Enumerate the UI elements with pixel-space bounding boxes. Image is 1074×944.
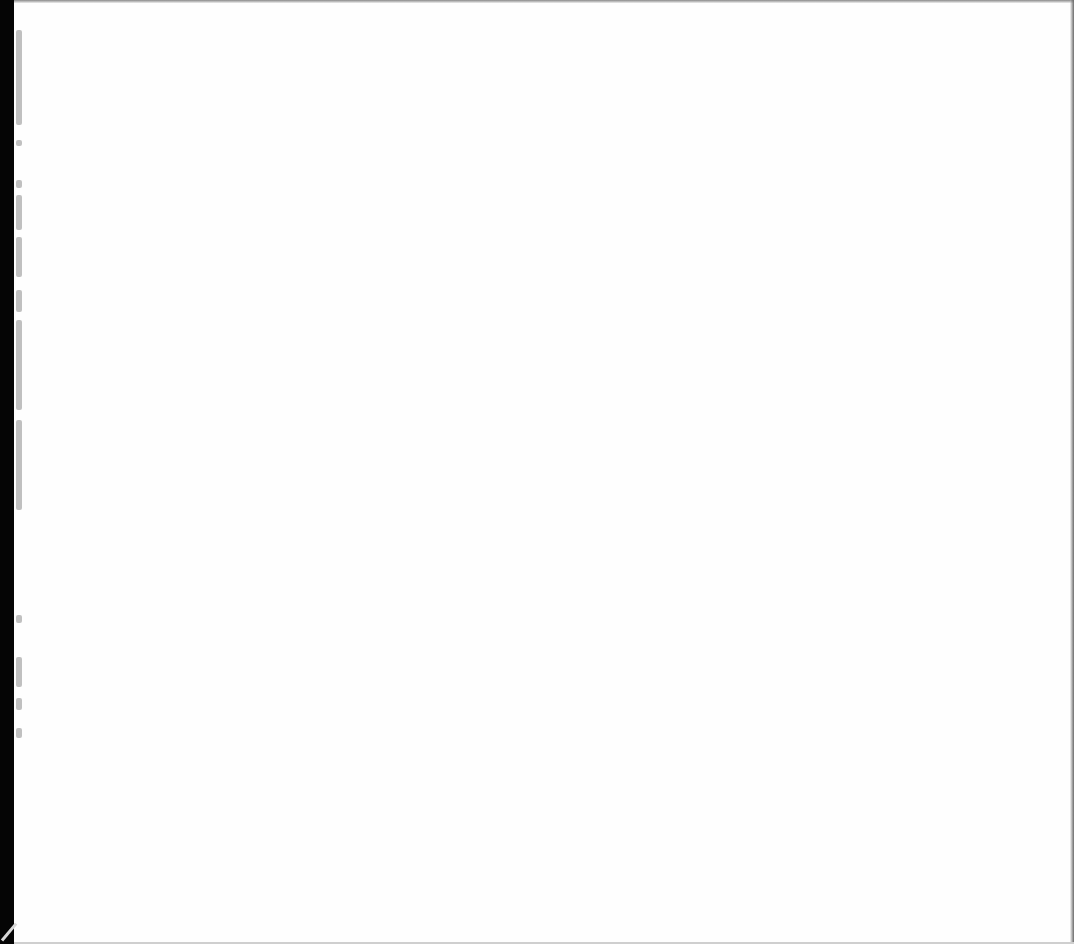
bleed-mark: [16, 615, 22, 623]
bleed-mark: [16, 320, 22, 410]
bleed-mark: [16, 657, 22, 687]
scan-margin-strip: [0, 0, 14, 944]
bleed-mark: [16, 140, 22, 146]
bleed-mark: [16, 728, 22, 738]
bleed-mark: [16, 180, 22, 188]
page-right-border: [1070, 0, 1074, 944]
bleed-mark: [16, 237, 22, 277]
scanned-page: [0, 0, 1074, 944]
page-top-border: [14, 0, 1074, 3]
bleed-mark: [16, 698, 22, 710]
bleed-mark: [16, 30, 22, 125]
bleed-mark: [16, 290, 22, 312]
bleed-mark: [16, 420, 22, 510]
bleed-mark: [16, 195, 22, 230]
